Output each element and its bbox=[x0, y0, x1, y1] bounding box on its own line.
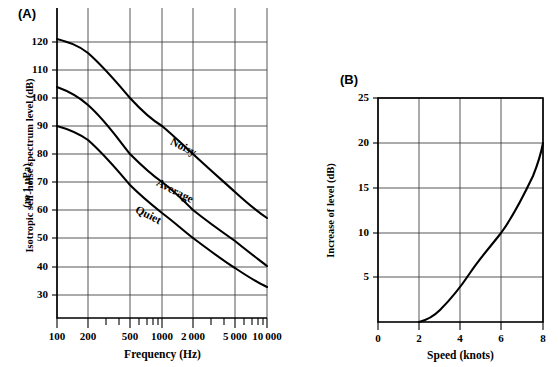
panel-a-xtick-200: 200 bbox=[68, 330, 108, 342]
panel-a-group bbox=[52, 8, 267, 328]
panel-b-yaxis-title: Increase of level (dB) bbox=[325, 146, 336, 276]
panel-b-tag: (B) bbox=[340, 72, 358, 87]
panel-b-ytick-15: 15 bbox=[345, 181, 369, 193]
panel-b-xtick-8: 8 bbox=[533, 332, 553, 344]
panel-b-xaxis-title: Speed (knots) bbox=[404, 349, 517, 361]
panel-b-ytick-20: 20 bbox=[345, 136, 369, 148]
figure-container: (A) 120 110 100 90 80 70 60 50 40 30 100… bbox=[0, 0, 558, 367]
panel-a-yaxis-title-line2: (re 1 µPa) bbox=[21, 91, 32, 281]
panel-b-ytick-25: 25 bbox=[345, 91, 369, 103]
panel-b-xtick-6: 6 bbox=[491, 332, 511, 344]
panel-a-ytick-30: 30 bbox=[20, 288, 48, 300]
panel-a-tag: (A) bbox=[18, 6, 36, 21]
panel-b-xtick-2: 2 bbox=[409, 332, 429, 344]
panel-b-ytick-10: 10 bbox=[345, 226, 369, 238]
panel-b-ytick-5: 5 bbox=[345, 270, 369, 282]
panel-b-xtick-4: 4 bbox=[450, 332, 470, 344]
panel-b-group bbox=[373, 98, 543, 330]
figure-svg bbox=[0, 0, 558, 367]
panel-a-ytick-120: 120 bbox=[20, 35, 48, 47]
panel-a-xaxis-title: Frequency (Hz) bbox=[80, 348, 245, 360]
curve-increase-of-level bbox=[419, 143, 543, 322]
panel-a-xtick-2000: 2 000 bbox=[172, 330, 214, 342]
panel-b-xtick-0: 0 bbox=[368, 332, 388, 344]
panel-b-axis-frame bbox=[378, 98, 543, 322]
panel-a-xtick-10000: 10 000 bbox=[243, 330, 291, 342]
